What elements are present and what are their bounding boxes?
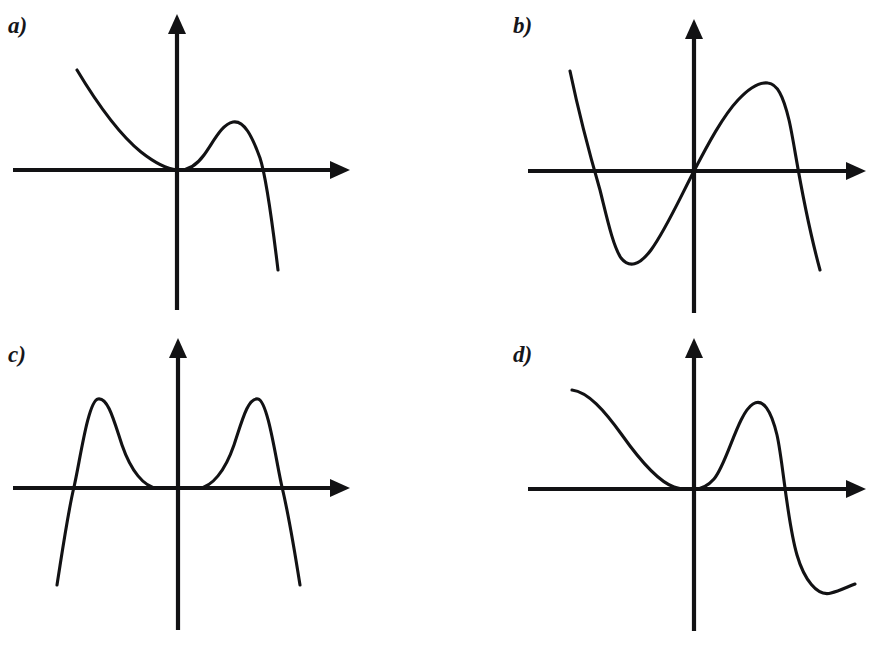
y-axis-arrowhead-icon <box>168 14 186 34</box>
x-axis-arrowhead-icon <box>330 161 350 179</box>
x-axis-arrowhead-icon <box>846 162 866 180</box>
y-axis-arrowhead-icon <box>685 19 703 39</box>
panel-c-plot <box>0 325 439 649</box>
panel-b: b) <box>439 0 878 324</box>
panel-c: c) <box>0 325 439 649</box>
panel-a-axes <box>13 14 350 310</box>
panel-a-plot <box>0 0 439 324</box>
panel-d-plot <box>439 325 878 649</box>
figure-sheet: a) b) c) <box>0 0 878 649</box>
panel-d-curve <box>572 390 855 594</box>
y-axis-arrowhead-icon <box>169 338 187 358</box>
panel-a: a) <box>0 0 439 324</box>
panel-b-plot <box>439 0 878 324</box>
y-axis-arrowhead-icon <box>685 338 703 358</box>
x-axis-arrowhead-icon <box>846 480 866 498</box>
panel-d: d) <box>439 325 878 649</box>
x-axis-arrowhead-icon <box>330 479 350 497</box>
